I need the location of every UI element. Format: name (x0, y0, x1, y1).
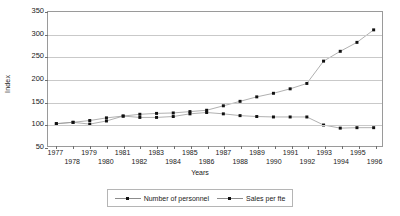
data-point-marker (205, 111, 208, 114)
data-point-marker (239, 114, 242, 117)
gridline (48, 125, 382, 126)
y-axis-tick-mark (45, 35, 48, 36)
x-axis-tick-label: 1983 (143, 149, 169, 157)
x-axis-tick-label: 1978 (59, 158, 85, 166)
x-axis-tick-labels: 1977197819791980198119821983198419851986… (0, 149, 400, 171)
x-axis-tick-label: 1996 (362, 158, 388, 166)
line-chart: Index 50100150200250300350 1977197819791… (0, 0, 400, 216)
gridline (48, 103, 382, 104)
y-axis-tick-label: 300 (18, 30, 44, 38)
x-axis-tick-label: 1987 (210, 149, 236, 157)
data-point-marker (322, 60, 325, 63)
data-point-marker (105, 120, 108, 123)
data-point-marker (255, 95, 258, 98)
gridline (48, 35, 382, 36)
data-point-marker (355, 126, 358, 129)
data-point-marker (355, 41, 358, 44)
y-axis-tick-label: 200 (18, 75, 44, 83)
legend-marker-icon (115, 195, 141, 202)
data-point-marker (155, 112, 158, 115)
data-point-marker (289, 115, 292, 118)
data-point-marker (122, 115, 125, 118)
data-point-marker (372, 28, 375, 31)
y-axis-tick-mark (45, 125, 48, 126)
data-point-marker (105, 116, 108, 119)
data-point-marker (188, 112, 191, 115)
data-point-marker (339, 127, 342, 130)
x-axis-tick-label: 1995 (345, 149, 371, 157)
x-axis-tick-label: 1984 (160, 158, 186, 166)
y-axis-tick-label: 250 (18, 52, 44, 60)
y-axis-tick-labels: 50100150200250300350 (14, 0, 44, 216)
legend-label: Number of personnel (144, 195, 209, 202)
y-axis-tick-label: 150 (18, 98, 44, 106)
data-point-marker (222, 104, 225, 107)
x-axis-tick-label: 1982 (126, 158, 152, 166)
x-axis-tick-label: 1981 (110, 149, 136, 157)
data-point-marker (222, 112, 225, 115)
legend-entry[interactable]: Sales per fte (217, 195, 285, 202)
data-point-marker (172, 111, 175, 114)
y-axis-tick-mark (45, 103, 48, 104)
legend-label: Sales per fte (246, 195, 285, 202)
y-axis-title: Index (0, 56, 14, 112)
data-point-marker (372, 126, 375, 129)
y-axis-tick-label: 100 (18, 120, 44, 128)
gridline (48, 80, 382, 81)
x-axis-title: Years (0, 169, 400, 176)
data-point-marker (255, 115, 258, 118)
x-axis-tick-label: 1989 (244, 149, 270, 157)
data-point-marker (305, 115, 308, 118)
x-axis-tick-label: 1991 (278, 149, 304, 157)
data-point-marker (289, 87, 292, 90)
chart-legend: Number of personnelSales per fte (107, 189, 293, 207)
x-axis-tick-label: 1990 (261, 158, 287, 166)
y-axis-tick-mark (45, 57, 48, 58)
data-point-marker (155, 116, 158, 119)
legend-entry[interactable]: Number of personnel (115, 195, 209, 202)
data-point-marker (138, 113, 141, 116)
series-line (56, 30, 373, 124)
data-point-marker (305, 82, 308, 85)
x-axis-tick-label: 1988 (227, 158, 253, 166)
y-axis-tick-label: 350 (18, 7, 44, 15)
data-point-marker (172, 115, 175, 118)
y-axis-tick-mark (45, 12, 48, 13)
x-axis-tick-label: 1979 (76, 149, 102, 157)
x-axis-tick-label: 1977 (42, 149, 68, 157)
gridline (48, 57, 382, 58)
x-axis-tick-label: 1992 (294, 158, 320, 166)
legend-marker-icon (217, 195, 243, 202)
data-point-marker (272, 115, 275, 118)
data-point-marker (272, 92, 275, 95)
y-axis-tick-mark (45, 80, 48, 81)
x-axis-tick-label: 1993 (311, 149, 337, 157)
data-point-marker (138, 116, 141, 119)
plot-area (47, 11, 383, 147)
x-axis-tick-label: 1980 (93, 158, 119, 166)
x-axis-tick-label: 1986 (194, 158, 220, 166)
data-point-marker (88, 119, 91, 122)
data-point-marker (339, 50, 342, 53)
data-point-marker (72, 121, 75, 124)
x-axis-tick-label: 1985 (177, 149, 203, 157)
x-axis-tick-label: 1994 (328, 158, 354, 166)
